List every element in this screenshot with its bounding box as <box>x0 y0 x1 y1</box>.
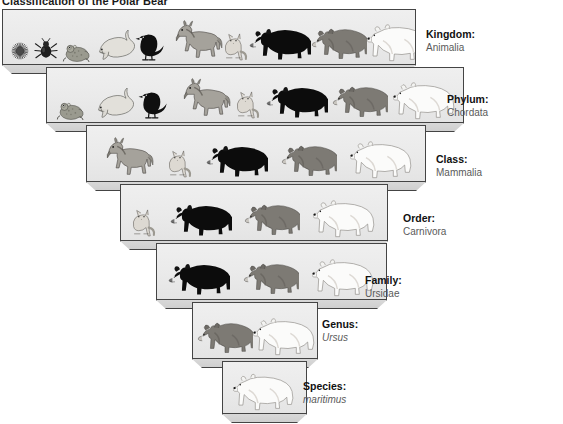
rank-name-species: Species: <box>303 380 346 393</box>
shelf-face-order <box>120 184 388 241</box>
shelf-face-family <box>156 243 387 300</box>
rank-value-family: Ursidae <box>365 287 402 300</box>
black-bear-illustration <box>266 82 328 120</box>
horse-illustration <box>175 70 231 120</box>
dolphin-illustration <box>95 20 135 62</box>
horse-illustration <box>167 12 223 62</box>
crow-illustration <box>138 86 170 120</box>
shelf-face-genus <box>192 302 318 359</box>
tier-genus <box>192 302 318 368</box>
rank-value-genus: Ursus <box>322 331 358 344</box>
black-bear-illustration <box>249 24 311 62</box>
animal-row-class <box>87 126 425 181</box>
rank-name-kingdom: Kingdom: <box>426 28 475 41</box>
rank-name-class: Class: <box>436 153 482 166</box>
rank-value-kingdom: Animalia <box>426 41 475 54</box>
cat-illustration <box>235 88 261 120</box>
polar-bear-illustration <box>253 314 317 356</box>
polar-bear-illustration <box>313 196 377 238</box>
rank-name-phylum: Phylum: <box>447 93 488 106</box>
brown-bear-illustration <box>243 257 299 297</box>
tier-family <box>156 243 387 309</box>
animal-row-order <box>121 185 387 240</box>
rank-label-order: Order:Carnivora <box>403 212 446 238</box>
shelf-face-class <box>86 125 426 182</box>
tier-phylum <box>46 67 464 132</box>
polar-bear-illustration <box>367 20 416 62</box>
rank-label-kingdom: Kingdom:Animalia <box>426 28 475 54</box>
tier-class <box>86 125 426 191</box>
polar-bear-illustration <box>350 137 414 179</box>
sea-urchin-illustration <box>7 40 33 62</box>
animal-row-family <box>157 244 386 299</box>
shelf-face-phylum <box>46 67 464 123</box>
brown-bear-illustration <box>281 139 337 179</box>
brown-bear-illustration <box>311 22 367 62</box>
rank-name-genus: Genus: <box>322 318 358 331</box>
animal-row-kingdom <box>3 10 415 64</box>
crow-illustration <box>135 28 167 62</box>
black-bear-illustration <box>168 259 230 297</box>
brown-bear-illustration <box>332 80 388 120</box>
horse-illustration <box>98 129 154 179</box>
rank-value-phylum: Chordata <box>447 106 488 119</box>
animal-row-species <box>223 362 306 413</box>
brown-bear-illustration <box>197 316 253 356</box>
rank-value-class: Mammalia <box>436 166 482 179</box>
black-bear-illustration <box>170 200 232 238</box>
polar-bear-illustration <box>233 370 296 411</box>
rank-label-class: Class:Mammalia <box>436 153 482 179</box>
classification-diagram: Classification of the Polar Bear Kingdom… <box>0 0 563 424</box>
cat-illustration <box>223 30 249 62</box>
frog-illustration <box>59 38 95 62</box>
rank-label-phylum: Phylum:Chordata <box>447 93 488 119</box>
tier-species <box>222 361 307 423</box>
animal-row-phylum <box>47 68 463 122</box>
cat-illustration <box>131 206 157 238</box>
beetle-illustration <box>33 38 59 62</box>
rank-label-species: Species:maritimus <box>303 380 346 406</box>
tier-kingdom <box>2 9 416 74</box>
shelf-face-species <box>222 361 307 414</box>
tier-order <box>120 184 388 250</box>
rank-label-family: Family:Ursidae <box>365 274 402 300</box>
cat-illustration <box>167 147 193 179</box>
animal-row-genus <box>193 303 317 358</box>
page-title: Classification of the Polar Bear <box>2 0 168 7</box>
rank-name-order: Order: <box>403 212 446 225</box>
dolphin-illustration <box>94 78 134 120</box>
shelf-face-kingdom <box>2 9 416 65</box>
shelf-base-species <box>222 414 307 423</box>
frog-illustration <box>53 96 89 120</box>
brown-bear-illustration <box>244 198 300 238</box>
rank-value-order: Carnivora <box>403 225 446 238</box>
rank-label-genus: Genus:Ursus <box>322 318 358 344</box>
rank-value-species: maritimus <box>303 393 346 406</box>
rank-name-family: Family: <box>365 274 402 287</box>
black-bear-illustration <box>206 141 268 179</box>
